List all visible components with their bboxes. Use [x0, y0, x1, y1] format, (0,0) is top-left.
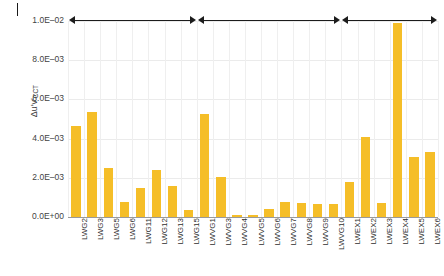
bar-series: [68, 21, 438, 217]
bar: [200, 114, 209, 217]
bar: [71, 126, 80, 217]
x-tick-label: LWEX3: [385, 218, 394, 245]
x-tick-label-text: LWG11: [144, 218, 153, 244]
x-tick-label: LWVG1: [208, 218, 217, 245]
y-tick-label: 8.0E–03: [18, 54, 64, 64]
arrow-right-icon: [190, 16, 196, 24]
y-tick-label: 6.0E–03: [18, 93, 64, 103]
x-tick-label: LWG15: [192, 218, 201, 245]
x-tick-label-text: LWG5: [112, 218, 121, 240]
bar: [120, 202, 129, 217]
x-tick-label-text: LWVG9: [321, 218, 330, 245]
x-tick-label: LWVG10: [337, 218, 346, 250]
x-tick-label: LWVG4: [240, 218, 249, 245]
x-tick-label: LWVG6: [273, 218, 282, 245]
y-tick-label: 2.0E–03: [18, 172, 64, 182]
bar: [264, 209, 273, 217]
x-tick-label-text: LWVG1: [208, 218, 217, 245]
bar: [313, 204, 322, 217]
x-axis-tick-labels: LWG2LWG3LWG5LWG6LWG11LWG12LWG13LWG15LWVG…: [68, 218, 438, 276]
x-tick-label-text: LWEX3: [385, 218, 394, 245]
bar: [136, 188, 145, 217]
x-tick-label-text: LWEX6: [433, 218, 442, 245]
x-tick-label-text: LWG12: [160, 218, 169, 245]
x-tick-label-text: LWVG3: [224, 218, 233, 245]
arrow-right-icon: [431, 16, 437, 24]
bar: [216, 177, 225, 217]
bar: [345, 182, 354, 217]
x-tick-label: LWEX4: [401, 218, 410, 245]
group-span-arrows: [68, 14, 438, 28]
x-tick-label: LWG13: [176, 218, 185, 245]
x-tick-label-text: LWG15: [192, 218, 201, 245]
bar: [393, 23, 402, 217]
x-tick-label: LWG5: [112, 218, 121, 240]
x-tick-label-text: LWVG7: [289, 218, 298, 245]
group-span-line: [348, 20, 431, 21]
x-tick-label-text: LWEX2: [369, 218, 378, 245]
x-tick-label: LWG11: [144, 218, 153, 244]
arrow-left-icon: [69, 16, 75, 24]
x-tick-label-text: LWG3: [96, 218, 105, 240]
x-tick-label: LWVG3: [224, 218, 233, 245]
bar: [87, 112, 96, 217]
x-tick-label: LWG2: [80, 218, 89, 240]
x-tick-label-text: LWEX5: [417, 218, 426, 245]
x-tick-label-text: LWG13: [176, 218, 185, 245]
chart-figure: Δu′v′CCT 1.0E–028.0E–036.0E–034.0E–032.0…: [0, 0, 444, 276]
x-tick-label: LWVG9: [321, 218, 330, 245]
x-tick-label: LWEX6: [433, 218, 442, 245]
x-tick-label-text: LWVG4: [240, 218, 249, 245]
bar: [297, 203, 306, 217]
x-tick-label: LWEX2: [369, 218, 378, 245]
bar: [280, 202, 289, 217]
x-tick-label: LWEX1: [353, 218, 362, 245]
bar: [425, 152, 434, 217]
arrow-right-icon: [334, 16, 340, 24]
x-tick-label-text: LWG2: [80, 218, 89, 240]
bar: [329, 204, 338, 217]
bar: [377, 203, 386, 217]
x-tick-label: LWEX5: [417, 218, 426, 245]
bar: [361, 137, 370, 217]
y-axis-tick-labels: 1.0E–028.0E–036.0E–034.0E–032.0E–030.0E+…: [16, 21, 64, 217]
bar: [152, 170, 161, 217]
arrow-left-icon: [342, 16, 348, 24]
x-tick-label: LWVG8: [305, 218, 314, 245]
x-tick-label-text: LWVG8: [305, 218, 314, 245]
x-tick-label: LWVG5: [257, 218, 266, 245]
x-tick-label-text: LWVG5: [257, 218, 266, 245]
y-tick-label: 0.0E+00: [18, 211, 64, 221]
bar: [168, 186, 177, 217]
y-tick-label: 1.0E–02: [18, 15, 64, 25]
bar: [104, 168, 113, 217]
bar: [409, 157, 418, 217]
group-span-line: [75, 20, 190, 21]
x-tick-label-text: LWEX4: [401, 218, 410, 245]
x-tick-label-text: LWG6: [128, 218, 137, 240]
x-tick-label-text: LWEX1: [353, 218, 362, 245]
x-tick-label-text: LWVG6: [273, 218, 282, 245]
group-span-line: [204, 20, 335, 21]
plot-area: [68, 21, 438, 217]
x-tick-label: LWG3: [96, 218, 105, 240]
x-tick-label: LWVG7: [289, 218, 298, 245]
x-tick-label: LWG6: [128, 218, 137, 240]
x-tick-label: LWG12: [160, 218, 169, 245]
gridline-vertical: [438, 21, 439, 217]
y-tick-label: 4.0E–03: [18, 133, 64, 143]
arrow-left-icon: [198, 16, 204, 24]
bar: [184, 210, 193, 217]
x-tick-label-text: LWVG10: [337, 218, 346, 250]
